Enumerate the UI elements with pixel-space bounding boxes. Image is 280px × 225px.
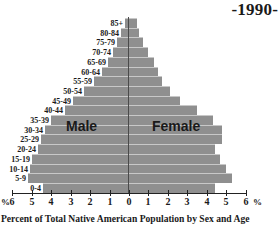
female-bar — [129, 134, 222, 144]
female-bar — [129, 76, 162, 86]
age-group-label: 40-44 — [44, 106, 63, 115]
age-group-label: 25-29 — [20, 135, 39, 144]
x-axis-tick-label: 1 — [104, 197, 116, 207]
x-axis-tick-label: 2 — [84, 197, 96, 207]
female-bar — [129, 47, 148, 57]
male-bar — [65, 105, 129, 115]
male-bar — [38, 144, 129, 154]
x-axis-line — [13, 193, 247, 194]
male-bar — [32, 154, 129, 164]
female-bar — [129, 183, 215, 193]
x-axis-tick-label: 4 — [45, 197, 57, 207]
x-axis-tick-label: 0 — [123, 197, 135, 207]
chart-caption: Percent of Total Native American Populat… — [1, 213, 249, 224]
x-axis-tick-label: 6 — [240, 197, 252, 207]
female-bar — [129, 105, 197, 115]
age-group-label: 65-69 — [87, 58, 106, 67]
x-axis-tick-label: 4 — [201, 197, 213, 207]
female-bar — [129, 57, 154, 67]
male-label: Male — [66, 118, 97, 134]
age-group-label: 20-24 — [17, 145, 36, 154]
age-group-label: 55-59 — [73, 77, 92, 86]
female-label: Female — [152, 118, 200, 134]
center-axis-line — [128, 17, 129, 193]
female-bar — [129, 86, 170, 96]
percent-label-left: % — [1, 197, 10, 207]
female-bar — [129, 173, 232, 183]
age-group-label: 75-79 — [96, 38, 115, 47]
male-bar — [94, 76, 129, 86]
female-bar — [129, 144, 215, 154]
percent-label-right: % — [253, 197, 262, 207]
male-bar — [41, 134, 129, 144]
male-bar — [43, 183, 129, 193]
female-bar — [129, 37, 143, 47]
age-group-label: 15-19 — [11, 155, 30, 164]
age-group-label: 5-9 — [15, 174, 26, 183]
age-group-label: 35-39 — [30, 116, 49, 125]
x-axis-tick-label: 5 — [26, 197, 38, 207]
x-axis-tick-label: 2 — [162, 197, 174, 207]
x-axis-tick-label: 3 — [181, 197, 193, 207]
male-bar — [84, 86, 129, 96]
x-axis-tick-label: 5 — [220, 197, 232, 207]
x-axis-tick-label: 1 — [142, 197, 154, 207]
x-axis-tick-label: 3 — [65, 197, 77, 207]
male-bar — [113, 47, 129, 57]
population-pyramid-chart: -1990- 85+80-8475-7970-7465-6960-6455-59… — [0, 0, 280, 225]
age-group-label: 10-14 — [9, 165, 28, 174]
female-bar — [129, 154, 220, 164]
male-bar — [108, 57, 129, 67]
age-group-label: 70-74 — [92, 48, 111, 57]
male-bar — [28, 173, 129, 183]
age-group-label: 50-54 — [63, 87, 82, 96]
female-bar — [129, 18, 137, 28]
age-group-label: 85+ — [110, 19, 123, 28]
chart-title-year: -1990- — [231, 0, 278, 20]
